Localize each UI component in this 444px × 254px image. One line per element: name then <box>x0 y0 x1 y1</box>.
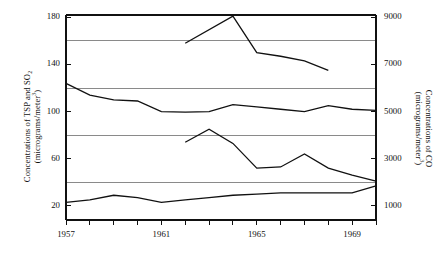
x-tick-label-1965: 1965 <box>237 229 277 239</box>
x-axis-ticks <box>66 220 376 225</box>
y-tick-label-left-60: 60 <box>22 153 60 163</box>
y-tick-label-right-3000: 3000 <box>384 153 424 163</box>
y-tick-label-right-1000: 1000 <box>384 200 424 210</box>
right-title-line1: Concentrations of CO <box>424 90 434 167</box>
line-chart-canvas <box>0 0 444 254</box>
y-tick-label-left-20: 20 <box>22 200 60 210</box>
y-tick-label-right-9000: 9000 <box>384 11 424 21</box>
y-tick-label-right-5000: 5000 <box>384 106 424 116</box>
chart-figure: Concentrations of TSP and SO2 (microgram… <box>0 0 444 254</box>
x-tick-label-1957: 1957 <box>46 229 86 239</box>
y-tick-label-left-100: 100 <box>22 106 60 116</box>
y-tick-label-right-7000: 7000 <box>384 58 424 68</box>
x-tick-label-1961: 1961 <box>141 229 181 239</box>
y-axis-right-title: Concentrations of CO (micrograms/meter3) <box>414 44 435 212</box>
right-title-line2: (micrograms/meter3) <box>414 44 424 212</box>
plot-background <box>66 15 376 220</box>
x-tick-label-1969: 1969 <box>332 229 372 239</box>
y-tick-label-left-140: 140 <box>22 58 60 68</box>
left-title-line1: Concentrations of TSP and SO <box>22 74 32 182</box>
left-title-subscript: 2 <box>27 71 33 74</box>
y-tick-label-left-180: 180 <box>22 11 60 21</box>
